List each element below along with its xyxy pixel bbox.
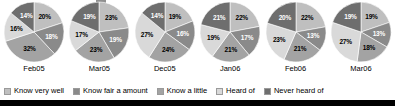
slice-value-label: 13%	[373, 31, 385, 38]
legend-swatch-icon	[157, 88, 164, 95]
bottom-black-bar	[0, 100, 395, 106]
legend-label: Know a little	[167, 87, 207, 95]
legend-item: Know a little	[157, 87, 207, 95]
slice-value-label: 17%	[75, 31, 87, 38]
pie-category-label: Feb05	[23, 65, 44, 73]
slice-value-label: 21%	[213, 15, 225, 22]
slice-value-label: 27%	[141, 32, 153, 39]
legend-swatch-icon	[216, 88, 223, 95]
pie-category-label: Feb06	[285, 65, 306, 73]
legend-swatch-icon	[73, 88, 80, 95]
pie-chart-mar05: 23%19%23%17%19%Mar05	[67, 1, 131, 73]
pie-category-label: Mar05	[89, 65, 110, 73]
pie-graphic: 23%19%23%17%19%	[68, 1, 130, 63]
legend-item: Know fair a amount	[73, 87, 148, 95]
slice-value-label: 16%	[10, 25, 22, 32]
chart-legend: Know very wellKnow fair a amountKnow a l…	[0, 84, 395, 98]
legend-label: Know very well	[14, 87, 64, 95]
slice-value-label: 27%	[339, 38, 351, 45]
slice-value-label: 19%	[109, 37, 121, 44]
pie-chart-feb05: 20%18%32%16%14%Feb05	[2, 1, 66, 73]
legend-item: Never heard of	[264, 87, 324, 95]
slice-value-label: 22%	[235, 15, 247, 22]
slice-value-label: 23%	[273, 36, 285, 43]
slice-value-label: 22%	[301, 15, 313, 22]
slice-value-label: 20%	[38, 14, 50, 21]
legend-label: Heard of	[226, 87, 255, 95]
slice-value-label: 16%	[176, 31, 188, 38]
legend-swatch-icon	[4, 88, 11, 95]
pie-graphic: 20%18%32%16%14%	[3, 1, 65, 63]
slice-value-label: 24%	[162, 46, 174, 53]
slice-value-label: 23%	[105, 15, 117, 22]
slice-value-label: 17%	[241, 35, 253, 42]
slice-value-label: 13%	[307, 33, 319, 40]
pie-chart-feb06: 22%13%21%23%20%Feb06	[264, 1, 328, 73]
slice-value-label: 19%	[207, 35, 219, 42]
slice-value-label: 14%	[20, 12, 32, 19]
pie-graphic: 22%17%21%19%21%	[199, 1, 261, 63]
legend-swatch-icon	[264, 88, 271, 95]
pie-graphic: 19%13%18%27%19%	[330, 1, 392, 63]
pie-slices	[199, 1, 261, 63]
slice-value-label: 18%	[363, 45, 375, 52]
pie-category-label: Jan06	[220, 65, 240, 73]
pie-chart-jan06: 22%17%21%19%21%Jan06	[198, 1, 262, 73]
slice-value-label: 21%	[294, 46, 306, 53]
slice-value-label: 19%	[365, 14, 377, 21]
pie-chart-figure: 20%18%32%16%14%Feb0523%19%23%17%19%Mar05…	[0, 0, 395, 106]
legend-label: Never heard of	[274, 87, 324, 95]
legend-item: Heard of	[216, 87, 255, 95]
pie-chart-row: 20%18%32%16%14%Feb0523%19%23%17%19%Mar05…	[0, 1, 395, 81]
slice-value-label: 23%	[90, 46, 102, 53]
slice-value-label: 19%	[169, 14, 181, 21]
slice-value-label: 19%	[83, 14, 95, 21]
pie-graphic: 19%16%24%27%14%	[134, 1, 196, 63]
pie-chart-dec05: 19%16%24%27%14%Dec05	[133, 1, 197, 73]
legend-label: Know fair a amount	[83, 87, 148, 95]
legend-item: Know very well	[4, 87, 64, 95]
pie-category-label: Mar06	[350, 65, 371, 73]
pie-graphic: 22%13%21%23%20%	[265, 1, 327, 63]
slice-value-label: 21%	[225, 47, 237, 54]
pie-category-label: Dec05	[154, 65, 176, 73]
pie-chart-mar06: 19%13%18%27%19%Mar06	[329, 1, 393, 73]
slice-value-label: 20%	[279, 14, 291, 21]
slice-value-label: 19%	[344, 14, 356, 21]
slice-value-label: 18%	[45, 33, 57, 40]
slice-value-label: 14%	[151, 12, 163, 19]
slice-value-label: 32%	[23, 46, 35, 53]
